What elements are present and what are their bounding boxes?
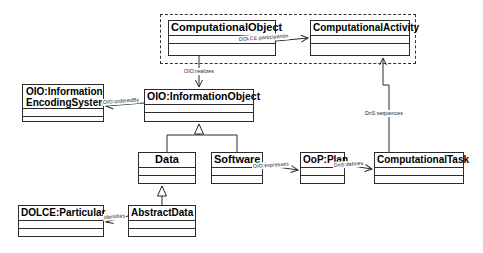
class-operations-compartment: [19, 229, 103, 237]
class-operations-compartment: [129, 229, 195, 237]
class-operations-compartment: [375, 176, 463, 184]
class-oio-informationobject[interactable]: OIO:InformationObject: [144, 89, 254, 122]
class-attributes-compartment: [145, 105, 253, 113]
class-name: Data: [139, 153, 195, 168]
class-oio-informationencodingsystem[interactable]: OIO:Information EncodingSystem: [22, 84, 104, 122]
class-operations-compartment: [145, 113, 253, 122]
edge-label-identifies: identifies: [103, 212, 127, 221]
class-name: ComputationalObject: [169, 21, 275, 36]
edge-label-orderedby: OIO:orderedBy: [102, 96, 141, 106]
class-dolce-particular[interactable]: DOLCE:Particular: [18, 205, 104, 237]
class-computationalactivity[interactable]: ComputationalActivity: [310, 20, 410, 56]
class-operations-compartment: [311, 44, 409, 56]
class-attributes-compartment: [311, 36, 409, 44]
class-name: ComputationalTask: [375, 153, 463, 168]
class-operations-compartment: [212, 176, 262, 184]
class-operations-compartment: [169, 44, 275, 56]
class-name: OIO:Information EncodingSystem: [23, 85, 103, 109]
class-data[interactable]: Data: [138, 152, 196, 184]
class-attributes-compartment: [19, 221, 103, 229]
class-operations-compartment: [23, 117, 103, 121]
edge-sequences: [383, 58, 389, 152]
edge-label-realizes: OIO:realizes: [183, 68, 215, 75]
class-name: DOLCE:Particular: [19, 206, 103, 221]
class-attributes-compartment: [23, 109, 103, 117]
class-name: ComputationalActivity: [311, 21, 409, 36]
class-attributes-compartment: [129, 221, 195, 229]
class-attributes-compartment: [139, 168, 195, 176]
edge-label-defines: DnS:defines: [333, 160, 365, 169]
edge-label-sequences: DnS:sequences: [364, 110, 404, 117]
class-attributes-compartment: [375, 168, 463, 176]
class-name: OIO:InformationObject: [145, 90, 253, 105]
edge-label-expresses: OIO:expresses: [252, 160, 290, 170]
class-operations-compartment: [139, 176, 195, 184]
uml-diagram-canvas: ComputationalObject ComputationalActivit…: [0, 0, 483, 253]
class-abstractdata[interactable]: AbstractData: [128, 205, 196, 237]
class-operations-compartment: [301, 176, 344, 184]
class-computationaltask[interactable]: ComputationalTask: [374, 152, 464, 184]
class-name: AbstractData: [129, 206, 195, 221]
